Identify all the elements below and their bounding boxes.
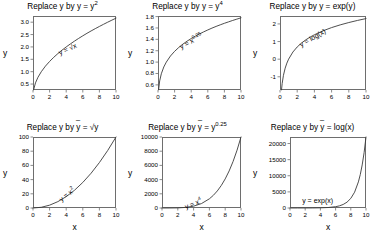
y-tick-label: 2 xyxy=(250,21,276,27)
chart-panel-3: Replace y by y = exp(y)-10120246810yy = … xyxy=(250,0,375,120)
data-curve xyxy=(33,137,116,208)
y-axis-label: y xyxy=(253,168,257,178)
data-curve xyxy=(34,18,116,90)
y-tick-label: 0 xyxy=(125,205,158,211)
x-tick-label: 6 xyxy=(81,94,84,100)
x-tick-label: 4 xyxy=(64,212,67,218)
x-tick-label: 4 xyxy=(189,94,192,100)
x-tick-label: 0 xyxy=(156,94,159,100)
x-tick-label: 0 xyxy=(278,94,281,100)
curve-annotation: y = exp(x) xyxy=(302,197,333,204)
y-tick-label: 0 xyxy=(0,205,29,211)
y-tick-label: 80 xyxy=(0,148,29,154)
y-axis-label: y xyxy=(128,48,132,58)
chart-panel-4: Replace y by y = √y0204060801000246810yx… xyxy=(0,121,125,241)
x-tick-label: 10 xyxy=(238,94,245,100)
data-curve xyxy=(159,18,241,90)
y-tick-label: 15000 xyxy=(250,157,286,163)
figure-grid: Replace y by y = y20.51.01.52.02.53.0024… xyxy=(0,0,375,241)
y-tick-label: 10000 xyxy=(125,134,158,140)
x-tick-label: 8 xyxy=(98,94,101,100)
x-tick-label: 10 xyxy=(363,94,370,100)
y-tick-label: 0.6 xyxy=(125,82,154,88)
x-tick-label: 0 xyxy=(288,212,291,218)
x-tick-label: 8 xyxy=(349,212,352,218)
x-axis-label: x xyxy=(33,222,116,232)
y-tick-label: -1 xyxy=(250,74,276,80)
chart-panel-1: Replace y by y = y20.51.01.52.02.53.0024… xyxy=(0,0,125,120)
y-tick-label: 3.0 xyxy=(0,19,29,25)
y-tick-label: 1 xyxy=(250,38,276,44)
x-tick-label: 6 xyxy=(330,94,333,100)
x-tick-label: 2 xyxy=(176,212,179,218)
x-tick-label: 4 xyxy=(192,212,195,218)
x-tick-label: 10 xyxy=(363,212,370,218)
x-tick-label: 6 xyxy=(81,212,84,218)
chart-panel-6: Replace y by y = log(x)05000100001500020… xyxy=(250,121,375,241)
x-tick-label: 2 xyxy=(48,94,51,100)
x-tick-label: 6 xyxy=(206,94,209,100)
y-axis-label: y xyxy=(128,168,132,178)
x-tick-label: 2 xyxy=(48,212,51,218)
x-tick-label: 10 xyxy=(113,212,120,218)
x-tick-label: 4 xyxy=(313,94,316,100)
x-tick-label: 2 xyxy=(303,212,306,218)
x-tick-label: 0 xyxy=(31,94,34,100)
x-axis-label: x xyxy=(162,222,241,232)
y-tick-label: 8000 xyxy=(125,148,158,154)
y-tick-label: 20000 xyxy=(250,140,286,146)
y-tick-label: 0.5 xyxy=(0,81,29,87)
data-curve xyxy=(162,137,241,208)
x-tick-label: 6 xyxy=(208,212,211,218)
y-tick-label: 2.5 xyxy=(0,31,29,37)
x-tick-label: 2 xyxy=(295,94,298,100)
y-tick-label: 1.8 xyxy=(125,13,154,19)
x-tick-label: 0 xyxy=(160,212,163,218)
x-tick-label: 10 xyxy=(238,212,245,218)
x-tick-label: 8 xyxy=(223,212,226,218)
x-tick-label: 6 xyxy=(334,212,337,218)
x-tick-label: 8 xyxy=(98,212,101,218)
x-tick-label: 10 xyxy=(113,94,120,100)
y-tick-label: 0.8 xyxy=(125,70,154,76)
y-tick-label: 1.4 xyxy=(125,36,154,42)
x-tick-label: 2 xyxy=(173,94,176,100)
y-axis-label: y xyxy=(253,48,257,58)
y-tick-label: 1.0 xyxy=(0,69,29,75)
y-tick-label: 20 xyxy=(0,191,29,197)
x-tick-label: 0 xyxy=(31,212,34,218)
x-tick-label: 8 xyxy=(347,94,350,100)
y-tick-label: 100 xyxy=(0,134,29,140)
y-tick-label: 1.0 xyxy=(125,59,154,65)
y-tick-label: 0 xyxy=(250,205,286,211)
chart-panel-5: Replace y by y = y0.25020004000600080001… xyxy=(125,121,250,241)
x-tick-label: 4 xyxy=(64,94,67,100)
y-tick-label: 2000 xyxy=(125,191,158,197)
x-axis-label: x xyxy=(290,222,366,232)
y-tick-label: 1.6 xyxy=(125,25,154,31)
y-tick-label: 5000 xyxy=(250,189,286,195)
y-axis-label: y xyxy=(3,168,7,178)
x-tick-label: 8 xyxy=(223,94,226,100)
x-tick-label: 4 xyxy=(319,212,322,218)
chart-panel-2: Replace y by y = y40.60.81.01.21.41.61.8… xyxy=(125,0,250,120)
y-axis-label: y xyxy=(3,48,7,58)
